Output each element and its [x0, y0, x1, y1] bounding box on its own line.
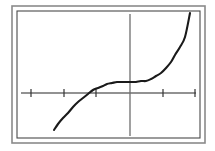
figure-container	[0, 0, 215, 151]
inner-border-rect	[17, 11, 200, 138]
cubic-function-graph	[0, 0, 215, 151]
